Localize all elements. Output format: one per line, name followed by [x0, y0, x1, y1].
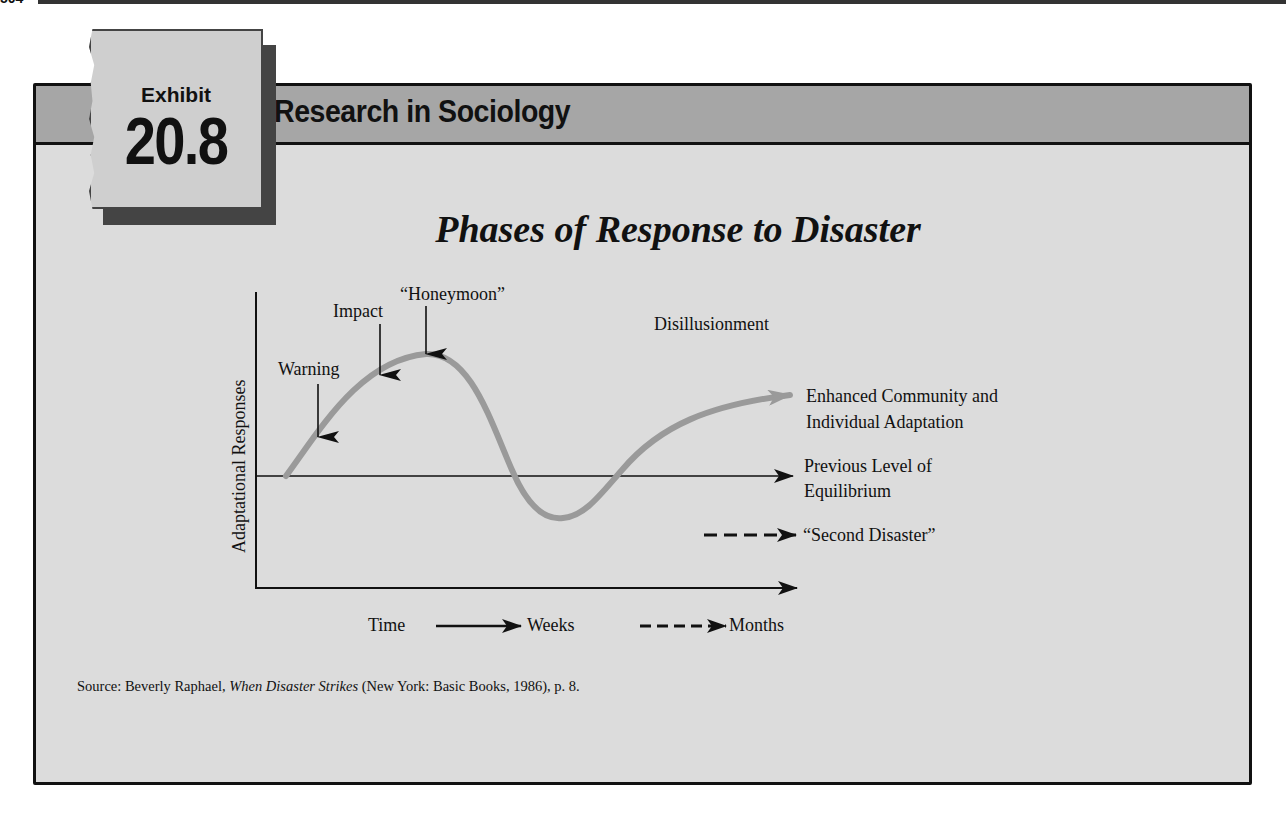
months-label: Months	[729, 615, 784, 635]
weeks-label: Weeks	[527, 615, 575, 635]
honeymoon-label: “Honeymoon”	[400, 284, 505, 304]
previous-level-label-line2: Equilibrium	[804, 481, 891, 501]
disillusionment-label: Disillusionment	[654, 314, 769, 334]
source-citation: Source: Beverly Raphael, When Disaster S…	[77, 678, 580, 695]
source-prefix: Source: Beverly Raphael,	[77, 678, 229, 694]
source-suffix: (New York: Basic Books, 1986), p. 8.	[358, 678, 580, 694]
time-label: Time	[368, 615, 405, 635]
second-disaster-label: “Second Disaster”	[803, 525, 935, 545]
enhanced-label-line2: Individual Adaptation	[806, 412, 963, 432]
previous-level-label-line1: Previous Level of	[804, 456, 932, 476]
response-curve	[286, 354, 790, 518]
y-axis-label: Adaptational Responses	[229, 380, 249, 553]
impact-label: Impact	[333, 301, 383, 321]
enhanced-label-line1: Enhanced Community and	[806, 386, 998, 406]
warning-label: Warning	[278, 359, 340, 379]
source-book-title: When Disaster Strikes	[229, 678, 358, 694]
